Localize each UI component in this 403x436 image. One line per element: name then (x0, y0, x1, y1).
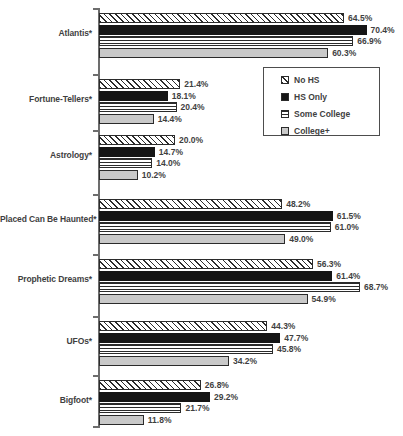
bar-value-label: 61.5% (337, 211, 361, 221)
category-label: Prophetic Dreams* (0, 274, 92, 284)
bar-group: Prophetic Dreams*56.3%61.4%68.7%54.9% (0, 256, 403, 304)
legend-swatch-hs-only-icon (281, 93, 289, 101)
bar-row: 56.3% (99, 259, 403, 269)
bar-row: 60.3% (99, 48, 403, 58)
bar-no-hs (99, 321, 267, 331)
bar-row: 48.2% (99, 199, 403, 209)
bar-no-hs (99, 135, 175, 145)
legend-swatch-no-hs-icon (281, 76, 289, 84)
bar-row: 14.7% (99, 147, 403, 157)
legend-swatch-some-college-icon (281, 110, 289, 118)
bar-college-plus (99, 415, 144, 425)
legend-label-college-plus: College+ (294, 126, 330, 136)
bar-row: 54.9% (99, 294, 403, 304)
bar-row: 20.0% (99, 135, 403, 145)
bar-row: 10.2% (99, 170, 403, 180)
y-axis-tick (93, 8, 98, 10)
category-label: Atlantis* (0, 28, 92, 38)
bar-value-label: 29.2% (214, 392, 238, 402)
bar-some-college (99, 222, 331, 232)
legend-item-no-hs: No HS (281, 75, 320, 85)
legend-item-college-plus: College+ (281, 126, 330, 136)
bar-row: 61.5% (99, 211, 403, 221)
bar-value-label: 14.4% (158, 114, 182, 124)
bar-value-label: 48.2% (286, 199, 310, 209)
bar-row: 11.8% (99, 415, 403, 425)
bar-value-label: 44.3% (271, 321, 295, 331)
bar-row: 61.0% (99, 222, 403, 232)
bar-group: Astrology*20.0%14.7%14.0%10.2% (0, 132, 403, 180)
bar-some-college (99, 282, 360, 292)
legend-item-hs-only: HS Only (281, 92, 327, 102)
bar-value-label: 45.8% (277, 344, 301, 354)
chart-legend: No HS HS Only Some College College+ (263, 67, 380, 136)
bar-no-hs (99, 380, 201, 390)
bar-hs-only (99, 333, 280, 343)
bar-row: 49.0% (99, 234, 403, 244)
bar-college-plus (99, 170, 138, 180)
y-axis-tick (93, 254, 98, 256)
bar-no-hs (99, 259, 313, 269)
bar-value-label: 11.8% (148, 415, 172, 425)
bar-no-hs (99, 199, 282, 209)
y-axis-tick (93, 194, 98, 196)
bar-some-college (99, 158, 152, 168)
bar-hs-only (99, 25, 367, 35)
bar-some-college (99, 36, 353, 46)
bar-row: 64.5% (99, 13, 403, 23)
bar-value-label: 26.8% (205, 380, 229, 390)
bar-group: Placed Can Be Haunted*48.2%61.5%61.0%49.… (0, 196, 403, 244)
bar-college-plus (99, 48, 328, 58)
bar-row: 70.4% (99, 25, 403, 35)
bar-row: 26.8% (99, 380, 403, 390)
bar-hs-only (99, 91, 168, 101)
bar-value-label: 70.4% (371, 25, 395, 35)
bar-value-label: 60.3% (332, 48, 356, 58)
bar-value-label: 18.1% (172, 91, 196, 101)
bar-group: Bigfoot*26.8%29.2%21.7%11.8% (0, 377, 403, 425)
legend-item-some-college: Some College (281, 109, 350, 119)
paranormal-beliefs-bar-chart: Atlantis*64.5%70.4%66.9%60.3%Fortune-Tel… (0, 0, 403, 436)
y-axis-tick (93, 375, 98, 377)
y-axis-tick-end (93, 426, 98, 428)
bar-no-hs (99, 13, 344, 23)
bar-value-label: 21.7% (185, 403, 209, 413)
bar-value-label: 66.9% (357, 36, 381, 46)
bar-value-label: 56.3% (317, 259, 341, 269)
bar-value-label: 21.4% (184, 79, 208, 89)
bar-row: 21.7% (99, 403, 403, 413)
bar-row: 45.8% (99, 344, 403, 354)
bar-value-label: 10.2% (142, 170, 166, 180)
bar-value-label: 49.0% (289, 234, 313, 244)
y-axis-tick (93, 130, 98, 132)
bar-college-plus (99, 356, 229, 366)
legend-label-no-hs: No HS (294, 75, 320, 85)
y-axis-tick (93, 316, 98, 318)
y-axis-tick (93, 74, 98, 76)
category-label: Placed Can Be Haunted* (0, 214, 92, 224)
bar-group: Atlantis*64.5%70.4%66.9%60.3% (0, 10, 403, 58)
bar-college-plus (99, 234, 285, 244)
bar-value-label: 34.2% (233, 356, 257, 366)
legend-label-hs-only: HS Only (294, 92, 327, 102)
category-label: Fortune-Tellers* (0, 94, 92, 104)
bar-value-label: 14.0% (156, 158, 180, 168)
bar-college-plus (99, 294, 308, 304)
bar-value-label: 47.7% (284, 333, 308, 343)
bar-value-label: 20.0% (179, 135, 203, 145)
bar-row: 61.4% (99, 271, 403, 281)
bar-hs-only (99, 271, 332, 281)
legend-label-some-college: Some College (294, 109, 350, 119)
bar-no-hs (99, 79, 180, 89)
bar-row: 68.7% (99, 282, 403, 292)
bar-some-college (99, 344, 273, 354)
bar-some-college (99, 403, 181, 413)
bar-value-label: 61.4% (336, 271, 360, 281)
bar-value-label: 64.5% (348, 13, 372, 23)
bar-value-label: 61.0% (335, 222, 359, 232)
bar-college-plus (99, 114, 154, 124)
bar-row: 29.2% (99, 392, 403, 402)
legend-swatch-college-plus-icon (281, 127, 289, 135)
bar-value-label: 54.9% (312, 294, 336, 304)
bar-row: 34.2% (99, 356, 403, 366)
